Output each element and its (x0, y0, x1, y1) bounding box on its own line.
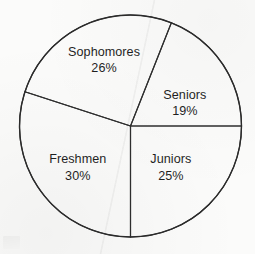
slice-label-value: 30% (49, 167, 106, 184)
slice-label-value: 25% (150, 167, 191, 184)
slice-label-name: Juniors (150, 151, 191, 168)
pie-slice-label-freshmen: Freshmen 30% (49, 151, 106, 184)
slice-label-value: 26% (68, 60, 140, 77)
slice-label-value: 19% (163, 103, 206, 120)
slice-label-name: Freshmen (49, 151, 106, 168)
slice-label-name: Seniors (163, 86, 206, 103)
pie-slice-label-sophomores: Sophomores 26% (68, 43, 140, 76)
scan-smudge-artifact (3, 236, 20, 249)
pie-chart-page: Sophomores 26% Seniors 19% Juniors 25% F… (0, 0, 255, 254)
pie-slice-label-juniors: Juniors 25% (150, 151, 191, 184)
slice-label-name: Sophomores (68, 43, 140, 60)
pie-slice-label-seniors: Seniors 19% (163, 86, 206, 119)
pie-chart-graphic (0, 0, 255, 254)
